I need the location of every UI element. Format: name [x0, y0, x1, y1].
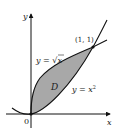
origin-dot	[29, 112, 32, 115]
sqrt-curve-label: y = √x	[35, 56, 62, 65]
intersection-label: (1, 1)	[75, 36, 94, 44]
region-d-label: D	[50, 82, 58, 92]
x-axis-label: x	[107, 118, 112, 127]
y-axis-label: y	[22, 12, 28, 21]
origin-label: 0	[24, 117, 29, 126]
intersection-dot	[91, 45, 94, 48]
region-diagram: y x 0 (1, 1) y = √x D y = x2	[0, 0, 117, 137]
square-curve-label: y = x2	[71, 84, 96, 94]
